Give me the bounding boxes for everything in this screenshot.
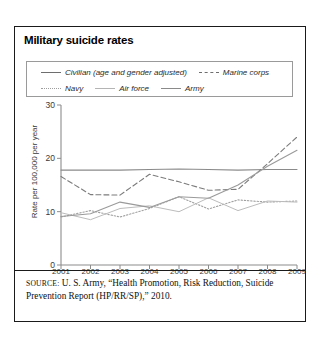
x-tick-label: 2009	[277, 267, 317, 276]
legend-label-civilian: Civilian (age and gender adjusted)	[65, 68, 187, 77]
legend-label-army: Army	[185, 84, 204, 93]
legend-item-navy: Navy	[41, 84, 83, 93]
y-axis-ticks: 0102030	[15, 101, 55, 261]
legend-line-light-icon	[95, 85, 115, 92]
divider	[15, 270, 305, 271]
legend-item-army: Army	[161, 84, 204, 93]
legend-row-2: Navy Air force Army	[27, 80, 306, 96]
legend-line-medium-icon	[161, 85, 181, 92]
source-text: U. S. Army, “Health Promotion, Risk Redu…	[26, 278, 273, 301]
chart-plot-area: Rate per 100,000 per year 0102030 200120…	[15, 101, 307, 297]
chart-legend: Civilian (age and gender adjusted) Marin…	[26, 61, 293, 97]
legend-row-1: Civilian (age and gender adjusted) Marin…	[27, 64, 306, 80]
legend-label-navy: Navy	[65, 84, 83, 93]
source-prefix: SOURCE:	[26, 279, 59, 288]
y-tick-label: 10	[29, 207, 55, 217]
legend-line-solid-icon	[41, 69, 61, 76]
series-line-navy	[61, 197, 297, 217]
series-line-marine-corps	[61, 137, 297, 195]
legend-label-air-force: Air force	[119, 84, 149, 93]
legend-item-civilian: Civilian (age and gender adjusted)	[41, 68, 187, 77]
page-title: Military suicide rates	[24, 34, 133, 46]
legend-item-air-force: Air force	[95, 84, 149, 93]
y-tick-label: 20	[29, 153, 55, 163]
figure-container: Military suicide rates Civilian (age and…	[14, 26, 306, 322]
series-line-air-force	[61, 198, 297, 220]
legend-line-dashed-icon	[199, 69, 219, 76]
chart-svg	[15, 101, 307, 281]
series-line-army	[61, 150, 297, 216]
legend-item-marine-corps: Marine corps	[199, 68, 269, 77]
legend-line-dotted-icon	[41, 85, 61, 92]
legend-label-marine-corps: Marine corps	[223, 68, 269, 77]
source-note: SOURCE: U. S. Army, “Health Promotion, R…	[26, 277, 294, 302]
y-tick-label: 30	[29, 100, 55, 110]
